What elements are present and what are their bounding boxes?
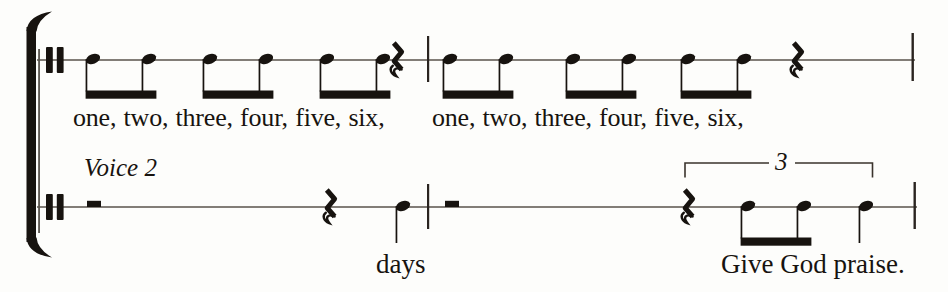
lyric-voice2-praise: Give God praise. [721, 251, 905, 278]
bracket-bottom-curl [27, 238, 53, 258]
eighth-pair [84, 52, 157, 99]
system-barline [38, 49, 40, 233]
lyric-voice2-days: days [376, 251, 426, 278]
sheet-music-page: one, two, three, four, five, six, one, t… [0, 0, 948, 292]
barline-voice2-mid [427, 184, 429, 229]
eighth-pair [564, 52, 637, 99]
tuplet-number: 3 [775, 149, 788, 174]
quarter-note [857, 199, 874, 243]
eighth-pair [679, 52, 752, 99]
lyrics-voice1-measure2: one, two, three, four, five, six, [432, 105, 743, 131]
lyrics-voice1-measure1: one, two, three, four, five, six, [73, 105, 384, 131]
barline-voice1-end [912, 33, 914, 81]
bracket-top-curl [27, 12, 53, 32]
barline-voice2-end [914, 182, 916, 229]
eighth-pair [739, 199, 812, 246]
barline-voice1-mid [427, 36, 429, 82]
eighth-pair [318, 52, 391, 99]
eighth-pair [201, 52, 274, 99]
half-rest [87, 201, 101, 207]
eighth-pair [441, 52, 514, 99]
half-rest [445, 201, 459, 207]
voice2-label: Voice 2 [84, 155, 157, 180]
quarter-note [394, 199, 411, 243]
notation-stamps [46, 43, 875, 246]
